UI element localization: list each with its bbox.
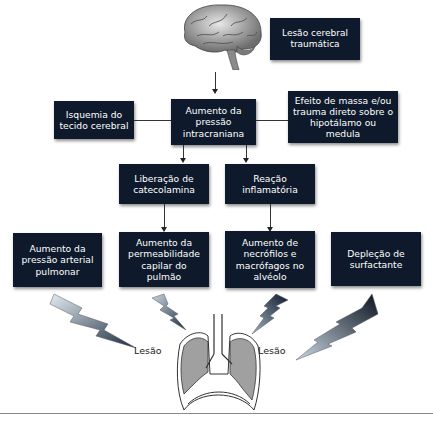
box-aumento-pic: Aumento da pressão intracraniana — [171, 99, 256, 145]
box-liberacao-catecolamina: Liberação de catecolamina — [119, 164, 209, 204]
box-reacao-inflamatoria: Reação inflamatória — [225, 164, 315, 204]
box-isquemia: Isquemia do tecido cerebral — [54, 101, 134, 139]
box-efeito-massa: Efeito de massa e/ou trauma direto sobre… — [288, 91, 398, 143]
box-pressao-arterial-pulmonar: Aumento da pressão arterial pulmonar — [13, 233, 102, 287]
box-neutrofilos-macrofagos: Aumento de necrófilos e macrófagos no al… — [225, 231, 315, 288]
lightning-bolt-icon — [48, 292, 140, 350]
box-deplecao-surfactante: Depleção de surfactante — [331, 232, 421, 286]
connector-line — [256, 120, 288, 121]
connector-line — [270, 204, 271, 229]
box-permeabilidade-capilar: Aumento da permeabilidade capilar do pul… — [119, 232, 209, 287]
label-lesao-left: Lesão — [134, 345, 162, 356]
connector-line — [164, 204, 165, 229]
connector-line — [134, 120, 171, 121]
arrow-down-icon — [180, 158, 186, 163]
trigger-box-traumatic-brain-injury: Lesão cerebral traumática — [270, 18, 360, 60]
bottom-divider — [0, 413, 433, 414]
arrow-down-icon — [243, 158, 249, 163]
lungs-icon — [168, 314, 268, 413]
label-lesao-right: Lesão — [258, 345, 286, 356]
brain-icon — [177, 2, 265, 70]
lightning-bolt-icon — [292, 292, 382, 362]
arrow-down-icon — [212, 89, 218, 94]
